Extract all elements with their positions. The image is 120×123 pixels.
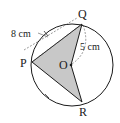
label-o: O	[59, 58, 68, 72]
label-8cm: 8 cm	[11, 28, 31, 39]
label-r: R	[79, 105, 87, 119]
label-5cm: 5 cm	[80, 41, 100, 52]
label-q: Q	[78, 7, 87, 21]
circle-diagram: Q P R O 8 cm 5 cm	[0, 0, 120, 123]
center-point-o	[70, 64, 73, 67]
label-p: P	[20, 56, 27, 70]
